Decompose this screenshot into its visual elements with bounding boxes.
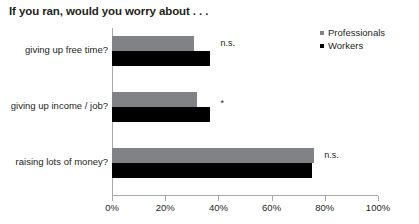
- category-label-2: raising lots of money?: [4, 156, 108, 167]
- significance-annotation: n.s.: [324, 150, 339, 160]
- bar-workers-2: [112, 163, 312, 178]
- significance-annotation: *: [220, 98, 224, 108]
- x-axis-tick-label: 0%: [105, 202, 119, 213]
- x-axis-tick: [378, 196, 379, 201]
- x-axis-tick-label: 80%: [315, 202, 334, 213]
- bar-professionals-2: [112, 148, 314, 163]
- x-axis-tick: [272, 196, 273, 201]
- bar-professionals-0: [112, 36, 194, 51]
- category-axis-labels: giving up free time?giving up income / j…: [0, 28, 108, 195]
- x-axis-tick-label: 40%: [209, 202, 228, 213]
- chart-container: If you ran, would you worry about . . . …: [0, 0, 419, 224]
- x-axis-tick: [165, 196, 166, 201]
- bar-workers-1: [112, 107, 210, 122]
- x-axis-tick: [218, 196, 219, 201]
- bar-group: n.s.: [112, 36, 378, 66]
- category-label-1: giving up income / job?: [4, 100, 108, 111]
- bar-group: n.s.: [112, 148, 378, 178]
- bar-professionals-1: [112, 92, 197, 107]
- x-axis-tick-label: 60%: [262, 202, 281, 213]
- x-axis-tick-label: 100%: [366, 202, 390, 213]
- plot-area: n.s.*n.s.: [112, 28, 378, 195]
- x-axis: 0%20%40%60%80%100%: [112, 196, 392, 220]
- bar-group: *: [112, 92, 378, 122]
- chart-title: If you ran, would you worry about . . .: [9, 5, 208, 17]
- x-axis-tick: [112, 196, 113, 201]
- bar-workers-0: [112, 51, 210, 66]
- x-axis-tick-label: 20%: [156, 202, 175, 213]
- category-label-0: giving up free time?: [4, 44, 108, 55]
- significance-annotation: n.s.: [220, 38, 235, 48]
- x-axis-tick: [325, 196, 326, 201]
